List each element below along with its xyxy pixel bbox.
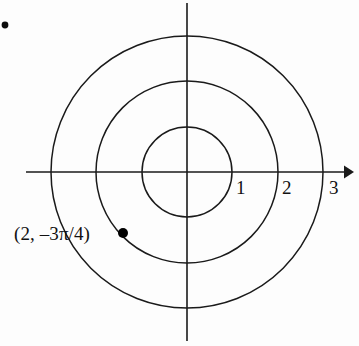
polar-diagram-figure: 1 2 3 (2, –3π/4) <box>0 0 359 346</box>
x-axis-arrow-icon <box>344 166 354 179</box>
plotted-point-dot <box>118 228 128 238</box>
plotted-point-label: (2, –3π/4) <box>14 224 90 243</box>
tick-label-2: 2 <box>282 178 292 197</box>
tick-label-3: 3 <box>329 178 339 197</box>
tick-label-1: 1 <box>236 178 246 197</box>
polar-diagram-canvas <box>0 0 359 346</box>
stray-dot-top-left-icon <box>2 22 9 29</box>
